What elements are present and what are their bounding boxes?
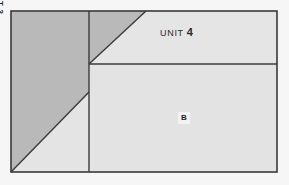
region-parcel-b-fill [89, 64, 277, 172]
site-plan-drawing: UNIT 3 UNIT 4 B [0, 0, 289, 185]
plan-canvas [0, 0, 289, 185]
